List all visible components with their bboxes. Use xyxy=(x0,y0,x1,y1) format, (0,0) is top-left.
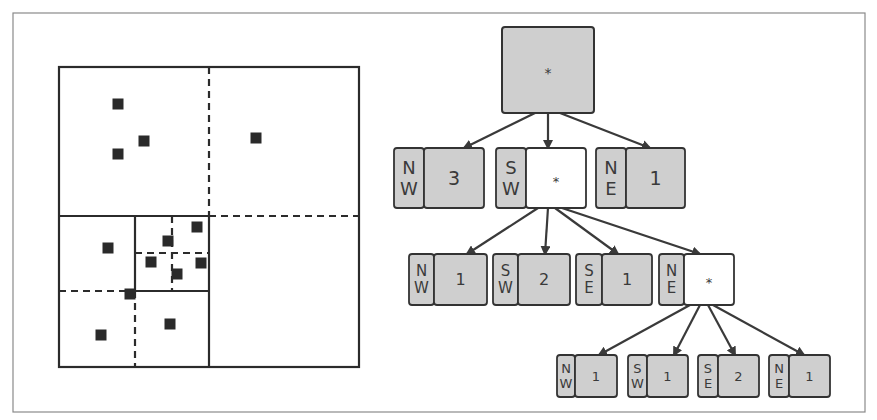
quadrant-label-top: N xyxy=(416,262,427,280)
data-point xyxy=(96,330,107,341)
quadtree-figure: *NW3SW*NE1NW1SW2SE1NE*NW1SW1SE2NE1 xyxy=(0,0,877,420)
tree-node-l3-sw: SW1 xyxy=(628,355,688,397)
tree-node-l2-sw: SW2 xyxy=(493,254,570,305)
quadrant-label-top: N xyxy=(774,361,784,376)
quadrant-label-bottom: W xyxy=(560,376,573,391)
data-point xyxy=(113,99,124,110)
quadrant-label-top: N xyxy=(666,262,677,280)
tree-node-l1-nw: NW3 xyxy=(394,148,484,208)
quadrant-label-bottom: W xyxy=(631,376,644,391)
node-value: 1 xyxy=(805,369,813,384)
data-point xyxy=(113,149,124,160)
data-point xyxy=(165,319,176,330)
data-point xyxy=(196,258,207,269)
figure-frame xyxy=(13,13,865,412)
node-value: 3 xyxy=(448,167,460,189)
tree-edge-arrow xyxy=(555,208,618,254)
quadrant-label-top: S xyxy=(584,262,594,280)
tree-node-l2-nw: NW1 xyxy=(409,254,487,305)
node-value: * xyxy=(706,275,713,290)
data-point xyxy=(103,243,114,254)
node-value: 1 xyxy=(592,369,600,384)
quadrant-label-top: S xyxy=(633,361,641,376)
quadrant-label-bottom: E xyxy=(667,279,676,297)
tree-node-l2-ne: NE* xyxy=(659,254,734,305)
tree-node-l1-sw: SW* xyxy=(496,148,586,208)
data-point xyxy=(125,289,136,300)
tree-edge-arrow xyxy=(467,208,538,254)
node-value: 1 xyxy=(455,270,465,289)
data-point xyxy=(172,269,183,280)
tree-edge-arrow xyxy=(464,113,535,148)
quadtree-spatial-panel xyxy=(59,67,359,367)
quadrant-label-top: S xyxy=(505,157,516,178)
node-value: 1 xyxy=(622,270,632,289)
quadrant-label-bottom: W xyxy=(502,178,520,199)
data-point xyxy=(139,136,150,147)
quadrant-label-bottom: W xyxy=(400,178,418,199)
data-point xyxy=(163,236,174,247)
node-value: * xyxy=(553,174,560,189)
tree-node-l3-nw: NW1 xyxy=(557,355,617,397)
tree-nodes: *NW3SW*NE1NW1SW2SE1NE*NW1SW1SE2NE1 xyxy=(394,27,830,397)
quadrant-label-bottom: W xyxy=(414,279,429,297)
quadrant-label-top: S xyxy=(501,262,511,280)
data-point xyxy=(192,222,203,233)
tree-edge-arrow xyxy=(599,305,690,355)
data-point xyxy=(146,257,157,268)
quadrant-label-bottom: E xyxy=(605,178,616,199)
quadrant-label-bottom: E xyxy=(775,376,783,391)
tree-edge-arrow xyxy=(562,208,700,254)
quadrant-label-top: S xyxy=(704,361,712,376)
data-point xyxy=(251,133,262,144)
tree-node-l1-ne: NE1 xyxy=(596,148,685,208)
node-value: 2 xyxy=(734,369,742,384)
tree-edge-arrow xyxy=(560,113,650,148)
tree-node-l3-ne: NE1 xyxy=(769,355,830,397)
tree-edge-arrow xyxy=(713,305,804,355)
tree-node-l2-se: SE1 xyxy=(576,254,652,305)
tree-edge-arrow xyxy=(545,208,548,254)
quadrant-label-top: N xyxy=(402,157,415,178)
node-value: 1 xyxy=(663,369,671,384)
node-value: 2 xyxy=(539,270,549,289)
quadrant-label-bottom: W xyxy=(498,279,513,297)
quadrant-label-bottom: E xyxy=(584,279,593,297)
tree-root-node: * xyxy=(502,27,594,113)
root-value: * xyxy=(545,65,552,81)
quadrant-label-top: N xyxy=(604,157,617,178)
quadrant-label-bottom: E xyxy=(704,376,712,391)
node-value: 1 xyxy=(649,167,661,189)
tree-node-l3-se: SE2 xyxy=(698,355,759,397)
quadrant-label-top: N xyxy=(561,361,571,376)
tree-edge-arrow xyxy=(708,305,735,355)
